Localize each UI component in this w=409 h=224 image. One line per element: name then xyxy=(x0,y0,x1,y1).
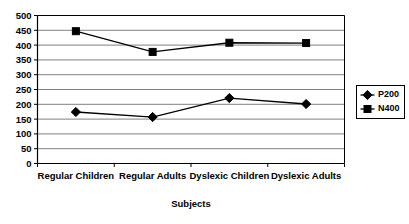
y-axis-tick-label: 50 xyxy=(21,143,32,154)
legend-label: P200 xyxy=(378,89,399,99)
y-axis-tick-label: 150 xyxy=(16,114,32,125)
x-axis-tick-label: Dyslexic Adults xyxy=(271,170,341,181)
data-point xyxy=(226,39,233,46)
plot-area xyxy=(38,16,345,164)
y-axis-tick-label: 250 xyxy=(16,84,32,95)
y-axis-tick-label: 350 xyxy=(16,54,32,65)
y-axis-tick-label: 450 xyxy=(16,25,32,36)
x-axis-tick-label: Dyslexic Children xyxy=(190,170,270,181)
y-axis-tick-label: 300 xyxy=(16,69,32,80)
chart-legend: P200N400 xyxy=(357,86,405,119)
data-point xyxy=(303,40,310,47)
y-axis-tick-label: 400 xyxy=(16,40,32,51)
y-axis-tick-label: 500 xyxy=(16,10,32,21)
data-point xyxy=(149,48,156,55)
data-point xyxy=(72,28,79,35)
x-axis-tick-label: Regular Children xyxy=(38,170,115,181)
x-axis-tick-labels: Regular ChildrenRegular AdultsDyslexic C… xyxy=(38,170,342,181)
y-axis-tick-label: 200 xyxy=(16,99,32,110)
chart-svg: 050100150200250300350400450500 Regular C… xyxy=(0,0,409,224)
y-axis-tick-label: 100 xyxy=(16,128,32,139)
x-axis-title: Subjects xyxy=(171,198,211,209)
legend-label: N400 xyxy=(378,103,400,113)
x-axis-tick-label: Regular Adults xyxy=(119,170,186,181)
y-axis-tick-label: 0 xyxy=(26,158,31,169)
line-chart: 050100150200250300350400450500 Regular C… xyxy=(0,0,409,224)
legend-marker xyxy=(364,106,371,113)
